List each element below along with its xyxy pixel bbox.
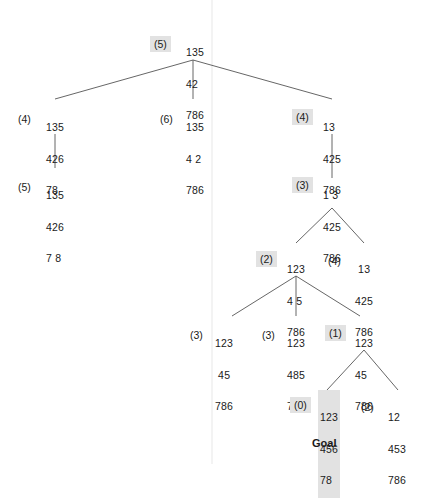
heuristic-label-n2a: (5) [14,179,35,195]
node-row: 135 [46,122,64,133]
heuristic-label-n4b: (3) [258,327,279,343]
heuristic-label-n3a: (2) [256,251,277,267]
node-row: 453 [388,444,406,455]
heuristic-label-n4a: (3) [186,327,207,343]
node-row: 4 2 [186,154,204,165]
puzzle-node-n5b: 12 453 786 [388,391,406,496]
puzzle-node-n1b: 135 4 2 786 [186,101,204,206]
node-row: 123 [215,338,233,349]
heuristic-label-n5b: (2) [357,399,378,415]
heuristic-label-n3b: (4) [324,253,345,269]
heuristic-label-n2c: (3) [292,177,313,193]
heuristic-label-n1b: (6) [156,111,177,127]
edge-n3a-n4c [296,276,360,316]
node-row: 135 [186,47,204,58]
node-row: 4 5 [287,296,305,307]
edge-root-n1c [193,60,332,99]
node-row: 426 [46,222,64,233]
heuristic-label-n1a: (4) [14,111,35,127]
goal-label: Goal [312,437,336,449]
node-row: 123 [320,412,338,423]
node-row: 12 [388,412,406,423]
node-row: 123 [355,338,373,349]
node-row: 425 [323,222,341,233]
node-row: 45 [215,370,233,381]
node-row: 45 [355,370,373,381]
node-row: 425 [323,154,341,165]
node-row: 1 3 [323,190,341,201]
edge-root-n1a [55,60,193,99]
heuristic-label-n4c: (1) [325,325,346,341]
node-row: 786 [186,185,204,196]
node-row: 786 [388,475,406,486]
node-row: 485 [287,370,305,381]
node-row: 13 [355,264,373,275]
node-row: 78 [320,475,338,486]
heuristic-label-n1c: (4) [292,109,313,125]
puzzle-node-n2a: 135 426 7 8 [46,169,64,274]
puzzle-node-n4a: 123 45 786 [215,317,233,422]
node-row: 426 [46,154,64,165]
node-row: 123 [287,264,305,275]
node-row: 42 [186,79,204,90]
heuristic-label-root: (5) [150,36,171,52]
node-row: 135 [46,190,64,201]
node-row: 786 [215,401,233,412]
heuristic-label-goal: (0) [290,397,311,413]
node-row: 135 [186,122,204,133]
node-row: 7 8 [46,253,64,264]
node-row: 425 [355,296,373,307]
node-row: 13 [323,122,341,133]
node-row: 123 [287,338,305,349]
